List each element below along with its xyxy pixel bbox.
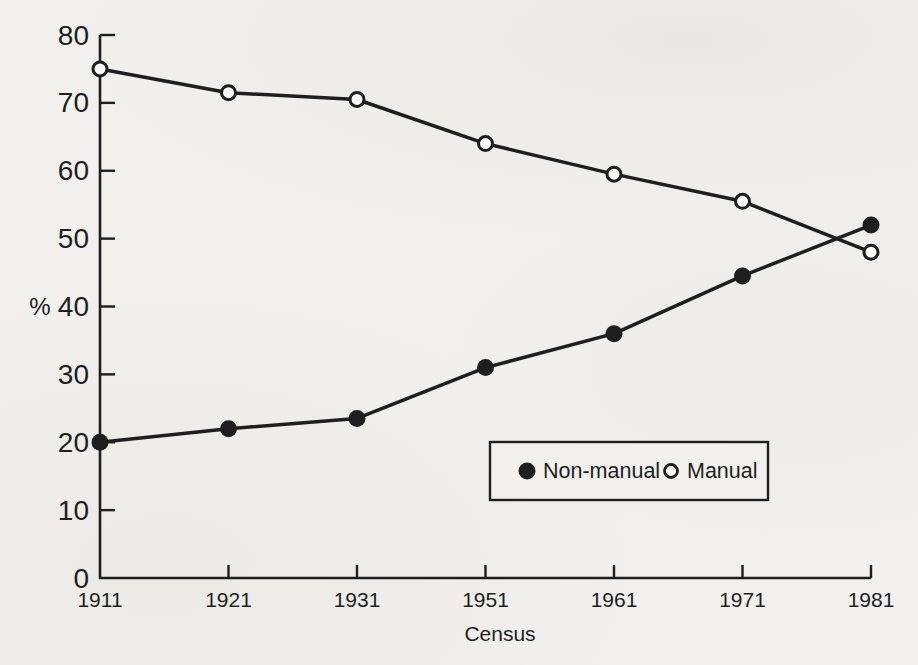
x-axis-tick-label: 1971 xyxy=(719,588,766,611)
scanned-book-page: 01020304050607080 1911192119311951196119… xyxy=(0,0,918,665)
data-point-non-manual-1911 xyxy=(92,434,109,451)
x-axis-title: Census xyxy=(464,622,535,645)
x-axis-tick-label: 1961 xyxy=(591,588,638,611)
y-axis-tick-label: 20 xyxy=(58,427,89,458)
y-axis-tick-label: 80 xyxy=(58,20,89,51)
x-axis-tick-label: 1981 xyxy=(848,588,895,611)
x-axis-tick-label: 1931 xyxy=(334,588,381,611)
legend-marker-non-manual xyxy=(519,463,536,480)
y-axis-tick-label: 40 xyxy=(58,291,89,322)
data-point-manual-1971 xyxy=(736,194,750,208)
data-point-manual-1981 xyxy=(864,245,878,259)
data-point-non-manual-1981 xyxy=(863,217,880,234)
data-point-non-manual-1921 xyxy=(220,420,237,437)
x-axis-tick-label: 1911 xyxy=(77,588,122,611)
data-point-non-manual-1931 xyxy=(349,410,366,427)
legend: Non-manualManual xyxy=(490,442,768,500)
series-line-manual xyxy=(100,69,871,252)
legend-label-manual: Manual xyxy=(687,459,758,483)
legend-marker-manual xyxy=(665,465,678,478)
y-axis-tick-label: 60 xyxy=(58,155,89,186)
x-axis: 1911192119311951196119711981 xyxy=(77,565,894,611)
x-axis-tick-label: 1921 xyxy=(205,588,252,611)
data-series xyxy=(92,62,880,451)
data-point-manual-1931 xyxy=(350,92,364,106)
legend-label-non-manual: Non-manual xyxy=(543,459,660,483)
data-point-manual-1961 xyxy=(607,167,621,181)
y-axis-tick-label: 50 xyxy=(58,223,89,254)
data-point-non-manual-1961 xyxy=(606,325,623,342)
y-axis-title: % xyxy=(29,293,50,320)
y-axis-tick-label: 30 xyxy=(58,359,89,390)
y-axis: 01020304050607080 xyxy=(58,20,115,594)
data-point-non-manual-1951 xyxy=(477,359,494,376)
y-axis-tick-label: 70 xyxy=(58,87,89,118)
x-axis-tick-label: 1951 xyxy=(462,588,509,611)
data-point-manual-1911 xyxy=(93,62,107,76)
series-line-non-manual xyxy=(100,225,871,442)
data-point-manual-1921 xyxy=(222,86,236,100)
census-occupation-line-chart: 01020304050607080 1911192119311951196119… xyxy=(0,0,918,665)
y-axis-tick-label: 10 xyxy=(58,495,89,526)
data-point-non-manual-1971 xyxy=(734,267,751,284)
data-point-manual-1951 xyxy=(479,137,493,151)
